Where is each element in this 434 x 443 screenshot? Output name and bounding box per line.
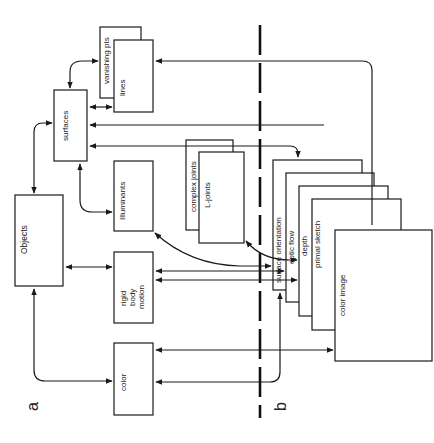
vision-architecture-diagram: surface orientation optic flow depth pri…	[0, 0, 434, 443]
color-box: color	[114, 343, 153, 415]
objects-box: Objects	[15, 195, 63, 286]
color-image-box: color image	[335, 230, 432, 361]
lines-box: lines	[114, 40, 153, 112]
rigid-body-motion-box: rigid body motion	[114, 252, 153, 323]
svg-text:vanishing pts: vanishing pts	[102, 37, 111, 84]
panel-label-b: b	[272, 402, 289, 411]
svg-text:Illuminants: Illuminants	[118, 182, 127, 220]
svg-text:primal sketch: primal sketch	[313, 221, 322, 268]
svg-text:optic flow: optic flow	[287, 230, 296, 264]
svg-text:depth: depth	[300, 236, 309, 256]
svg-text:surfaces: surfaces	[61, 111, 70, 141]
svg-text:color image: color image	[338, 274, 347, 316]
svg-text:L-joints: L-joints	[203, 182, 212, 208]
svg-text:complex joints: complex joints	[189, 161, 198, 212]
svg-text:motion: motion	[137, 285, 146, 309]
svg-text:rigid: rigid	[119, 291, 128, 306]
l-joints-box: L-joints	[199, 152, 244, 243]
svg-text:surface orientation: surface orientation	[274, 217, 283, 283]
svg-text:color: color	[119, 373, 128, 391]
svg-text:body: body	[128, 289, 137, 306]
surfaces-box: surfaces	[54, 90, 87, 161]
svg-text:Objects: Objects	[19, 225, 29, 254]
svg-text:lines: lines	[118, 80, 127, 96]
illuminants-box: Illuminants	[114, 161, 153, 231]
panel-label-a: a	[24, 402, 41, 411]
